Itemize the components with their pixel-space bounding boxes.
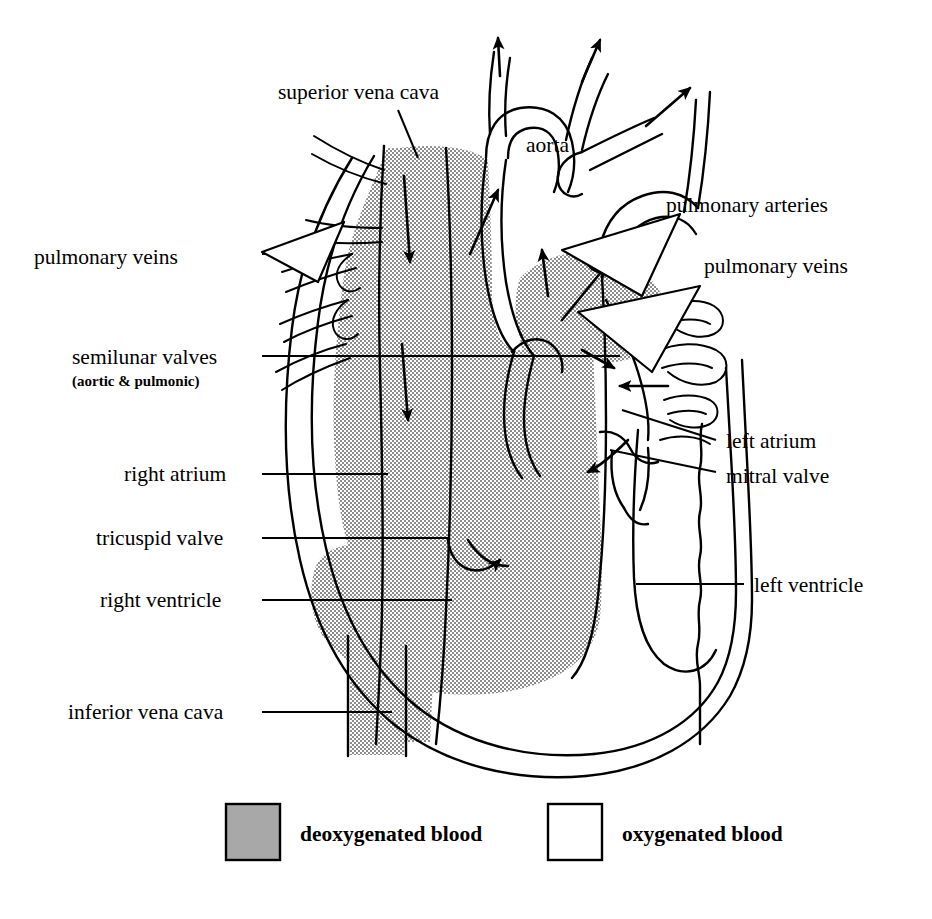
legend-swatch-oxygenated	[548, 804, 602, 860]
label-left-ventricle: left ventricle	[754, 573, 863, 597]
legend-label-oxygenated: oxygenated blood	[622, 822, 783, 846]
label-pulmonary-veins-left: pulmonary veins	[34, 245, 178, 269]
left-ventricle-chamber-wall	[633, 430, 716, 672]
aorta-branch-mid-b	[582, 74, 608, 150]
legend: deoxygenated blood oxygenated blood	[226, 804, 783, 860]
heart-diagram-svg: superior vena cava aorta pulmonary veins…	[0, 0, 932, 919]
mitral-valve-leaflet-anterior	[612, 452, 625, 508]
arrow-aorta-branch-3	[646, 88, 690, 126]
legend-swatch-deoxygenated	[226, 804, 280, 860]
pv-right-loop-2b	[662, 364, 712, 369]
pointer-pulmonary-veins-left	[262, 222, 344, 282]
label-aorta: aorta	[526, 133, 569, 157]
aorta-branch-right-a	[582, 118, 654, 152]
arrow-aorta-branch-2	[582, 40, 600, 82]
left-heart-inner-wall	[594, 368, 736, 754]
pulmonary-artery-ascending-a	[698, 92, 710, 208]
aorta-branch-right-b	[590, 134, 662, 170]
legend-label-deoxygenated: deoxygenated blood	[300, 822, 482, 846]
label-pulmonary-arteries: pulmonary arteries	[666, 193, 828, 217]
aorta-branch-left-b	[505, 58, 510, 136]
aorta-branch-left-a	[489, 52, 494, 134]
left-heart-outer-wall	[586, 360, 752, 776]
label-pulmonary-veins-right: pulmonary veins	[704, 254, 848, 278]
label-mitral-valve: mitral valve	[726, 464, 829, 488]
label-tricuspid-valve: tricuspid valve	[96, 526, 223, 550]
mitral-valve-chordae	[624, 508, 648, 524]
label-right-ventricle: right ventricle	[100, 588, 221, 612]
label-inferior-vena-cava: inferior vena cava	[68, 700, 224, 724]
label-semilunar-valves: semilunar valves	[72, 345, 217, 369]
heart-diagram-figure: superior vena cava aorta pulmonary veins…	[0, 0, 932, 919]
label-right-atrium: right atrium	[124, 462, 226, 486]
label-semilunar-valves-sub: (aortic & pulmonic)	[72, 373, 199, 390]
arrow-aorta-branch-1	[498, 38, 500, 76]
pv-right-loop-3b	[668, 411, 706, 414]
label-superior-vena-cava: superior vena cava	[278, 80, 440, 104]
label-left-atrium: left atrium	[726, 429, 816, 453]
pv-right-loop-4	[660, 437, 710, 444]
